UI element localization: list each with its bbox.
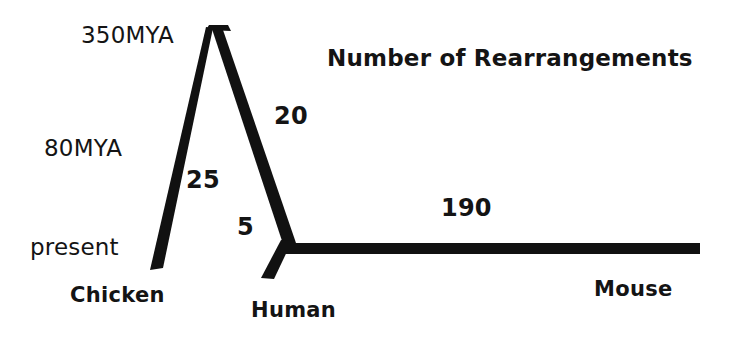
branch-label-mammal-ancestor: 20 bbox=[274, 104, 308, 128]
figure-title: Number of Rearrangements bbox=[327, 47, 693, 70]
phylogenetic-tree-figure: 350MYA 80MYA present Number of Rearrange… bbox=[0, 0, 731, 345]
taxon-label-chicken: Chicken bbox=[70, 285, 165, 306]
time-tick-80mya: 80MYA bbox=[44, 137, 122, 160]
branch-label-human: 5 bbox=[237, 215, 254, 239]
branch-label-chicken: 25 bbox=[186, 168, 220, 192]
branch-label-mouse: 190 bbox=[441, 196, 492, 220]
time-tick-present: present bbox=[30, 236, 119, 259]
time-tick-350mya: 350MYA bbox=[81, 24, 174, 47]
taxon-label-human: Human bbox=[251, 300, 336, 321]
tree-root-apex bbox=[206, 25, 231, 31]
branch-mouse bbox=[281, 243, 700, 254]
branch-mammal-ancestor bbox=[212, 27, 296, 250]
taxon-label-mouse: Mouse bbox=[594, 279, 673, 300]
branch-chicken bbox=[150, 27, 213, 270]
